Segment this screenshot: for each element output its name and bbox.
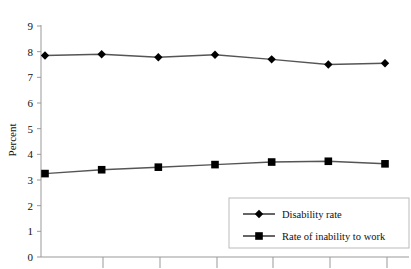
y-axis-tick-label: 5 — [28, 123, 34, 135]
square-marker-icon — [255, 232, 263, 240]
data-point-square-marker — [325, 157, 333, 165]
y-axis-tick-label: 0 — [28, 251, 34, 263]
data-point-square-marker — [381, 160, 389, 168]
y-axis-tick-label: 9 — [28, 20, 34, 32]
line-chart: 0123456789 Percent Disability rateRate o… — [0, 0, 411, 269]
y-axis-tick-label: 6 — [28, 97, 34, 109]
data-point-square-marker — [211, 161, 219, 169]
data-point-square-marker — [268, 158, 276, 166]
y-axis-tick-label: 4 — [28, 148, 34, 160]
legend-label: Rate of inability to work — [282, 231, 386, 242]
y-axis-tick-label: 3 — [28, 174, 34, 186]
y-axis-tick-label: 7 — [28, 71, 34, 83]
data-point-square-marker — [41, 170, 49, 178]
y-axis-title: Percent — [6, 124, 18, 157]
data-point-square-marker — [98, 166, 106, 174]
data-point-square-marker — [155, 163, 163, 171]
y-axis-tick-label: 8 — [28, 46, 34, 58]
chart-container: 0123456789 Percent Disability rateRate o… — [0, 0, 411, 269]
chart-legend: Disability rateRate of inability to work — [229, 198, 409, 248]
y-axis-tick-label: 2 — [28, 200, 34, 212]
legend-label: Disability rate — [282, 209, 342, 220]
y-axis-tick-label: 1 — [28, 225, 34, 237]
